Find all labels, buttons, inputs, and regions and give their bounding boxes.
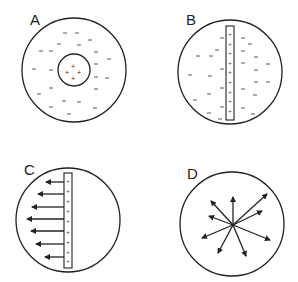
svg-text:+: + <box>66 208 70 214</box>
svg-text:+: + <box>228 98 232 104</box>
svg-text:+: + <box>228 69 232 75</box>
panel-c-label: C <box>24 162 35 177</box>
svg-text:+: + <box>66 229 70 235</box>
panel-c-rod-charges: +++ +++ +++ <box>66 178 70 264</box>
panel-d-radial-arrows <box>202 194 270 256</box>
svg-text:+: + <box>228 79 232 85</box>
panel-c: +++ +++ +++ <box>16 168 120 272</box>
panel-a-label: A <box>30 12 40 27</box>
svg-text:+: + <box>65 69 69 76</box>
panel-a-positive-charges: + + + + <box>65 63 81 82</box>
svg-text:+: + <box>66 249 70 255</box>
svg-text:+: + <box>228 60 232 66</box>
svg-text:+: + <box>228 50 232 56</box>
svg-text:+: + <box>66 258 70 264</box>
svg-text:+: + <box>228 31 232 37</box>
panel-d <box>180 172 284 276</box>
panel-b-rod-charges: +++ +++ +++ <box>228 31 232 114</box>
svg-text:+: + <box>66 239 70 245</box>
svg-text:+: + <box>66 178 70 184</box>
panel-c-field-arrows <box>27 182 64 257</box>
svg-text:+: + <box>71 75 75 82</box>
arrow-icon <box>218 225 233 253</box>
arrow-icon <box>233 194 267 225</box>
arrow-icon <box>233 211 262 225</box>
svg-text:+: + <box>77 69 81 76</box>
svg-text:+: + <box>66 198 70 204</box>
svg-text:+: + <box>66 188 70 194</box>
svg-text:+: + <box>228 41 232 47</box>
panel-a-outer-sphere <box>22 18 126 122</box>
arrow-icon <box>202 225 233 238</box>
panel-b: +++ +++ +++ <box>178 20 282 124</box>
diagram-canvas: + + + + +++ +++ +++ <box>0 0 298 282</box>
panel-d-label: D <box>187 166 198 181</box>
panel-a: + + + + <box>22 18 126 122</box>
panel-a-negative-charges <box>32 33 111 114</box>
panel-b-label: B <box>186 12 196 27</box>
svg-text:+: + <box>228 108 232 114</box>
svg-text:+: + <box>71 63 75 70</box>
svg-text:+: + <box>228 89 232 95</box>
svg-text:+: + <box>66 218 70 224</box>
